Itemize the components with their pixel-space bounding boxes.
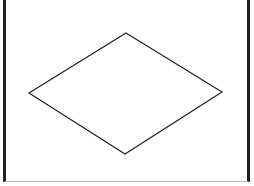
- diamond-shape: [29, 33, 222, 154]
- diagram-canvas: [0, 0, 254, 186]
